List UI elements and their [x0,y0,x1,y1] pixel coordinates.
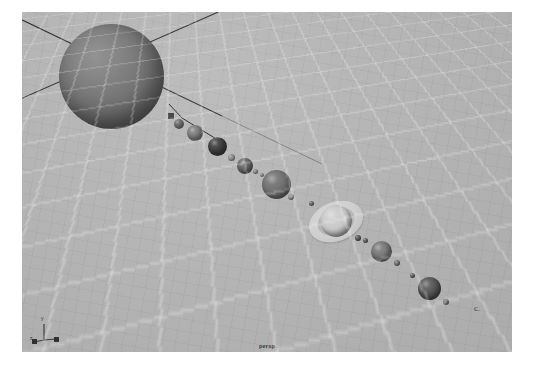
saturn-moon-2-moon-body[interactable] [355,235,361,241]
mars-moon-1-moon-body[interactable] [253,169,258,174]
axis-label-z: z [30,336,33,341]
perspective-viewport[interactable]: c. y z x persp [22,12,512,352]
axis-triad-icon [30,316,66,346]
jupiter-body[interactable] [262,170,291,199]
venus-body[interactable] [187,125,203,141]
axis-label-y: y [41,316,44,321]
saturn-moon-1-moon-body[interactable] [309,201,314,206]
uranus-moon-1-moon-body[interactable] [363,238,368,243]
axis-label-x: x [56,336,59,341]
earth-body[interactable] [208,137,227,156]
jupiter-moon-moon-body[interactable] [288,194,294,200]
axis-triad-gizmo: y z x [30,316,66,346]
app-root: c. y z x persp [0,0,533,372]
pluto-dot-glyph: . [478,306,480,312]
saturn-body[interactable] [320,205,352,237]
neptune-moon-2-moon-body[interactable] [443,299,449,305]
neptune-body[interactable] [418,277,441,300]
pluto-far-body[interactable]: c. [474,304,480,314]
uranus-moon-2-moon-body[interactable] [394,260,400,266]
uranus-body[interactable] [371,241,392,262]
viewport-name-label: persp [22,343,512,350]
neptune-moon-1-moon-body[interactable] [410,273,415,278]
mercury-body[interactable] [174,119,184,129]
sun-body[interactable] [59,24,164,129]
mars-body[interactable] [237,158,253,174]
earth-moon-moon-body[interactable] [228,154,235,161]
pivot-handle[interactable] [168,113,174,119]
